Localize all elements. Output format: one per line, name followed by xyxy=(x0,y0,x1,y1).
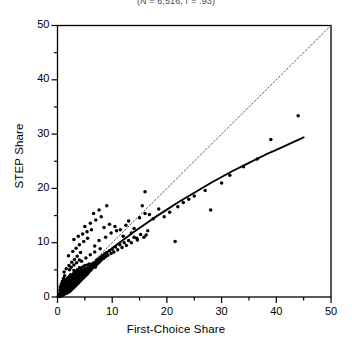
x-tick-label: 40 xyxy=(263,305,289,317)
y-tick-label: 10 xyxy=(24,235,50,247)
x-tick-label: 20 xyxy=(154,305,180,317)
scatter-plot-figure: (N = 6,516, r = .93) First-Choice Share … xyxy=(0,0,352,346)
y-tick-label: 40 xyxy=(24,72,50,84)
fitted-curve xyxy=(58,137,304,297)
plot-canvas xyxy=(0,0,352,346)
identity-line xyxy=(58,26,332,298)
y-tick-label: 30 xyxy=(24,127,50,139)
x-tick-label: 30 xyxy=(209,305,235,317)
x-tick-label: 10 xyxy=(99,305,125,317)
data-points xyxy=(57,114,300,298)
y-tick-label: 0 xyxy=(24,290,50,302)
y-tick-label: 50 xyxy=(24,18,50,30)
x-tick-label: 50 xyxy=(318,305,344,317)
x-tick-label: 0 xyxy=(45,305,71,317)
y-tick-label: 20 xyxy=(24,181,50,193)
